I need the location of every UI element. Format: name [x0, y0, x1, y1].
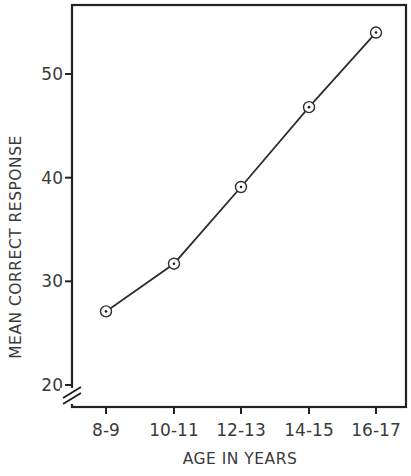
data-line: [106, 33, 376, 312]
data-point-marker: [236, 181, 247, 192]
y-tick-label: 40: [41, 168, 63, 188]
axis-break-icon: [60, 387, 81, 404]
y-axis-label: MEAN CORRECT RESPONSE: [7, 135, 25, 359]
x-axis-ticks: 8-910-1112-1314-1516-17: [92, 407, 401, 440]
y-axis-ticks: 20304050: [41, 64, 72, 395]
data-point-marker: [304, 102, 315, 113]
data-point-marker: [371, 27, 382, 38]
data-markers: [101, 27, 382, 317]
y-tick-label: 50: [41, 64, 63, 84]
y-tick-label: 20: [41, 375, 63, 395]
data-point-marker: [169, 258, 180, 269]
line-chart: 20304050 8-910-1112-1314-1516-17 AGE IN …: [0, 0, 411, 476]
y-tick-label: 30: [41, 271, 63, 291]
x-tick-label: 8-9: [92, 420, 120, 440]
plot-frame: [72, 5, 406, 407]
x-tick-label: 10-11: [149, 420, 198, 440]
x-tick-label: 14-15: [284, 420, 333, 440]
data-point-marker: [101, 306, 112, 317]
x-axis-label: AGE IN YEARS: [183, 450, 298, 468]
x-tick-label: 16-17: [351, 420, 400, 440]
x-tick-label: 12-13: [216, 420, 265, 440]
